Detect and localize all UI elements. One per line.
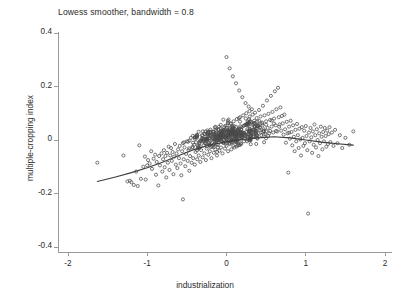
data-point (300, 126, 303, 129)
data-point (208, 150, 211, 153)
data-point (197, 130, 200, 133)
data-point (250, 108, 253, 111)
data-point (265, 99, 268, 102)
data-point (257, 108, 260, 111)
data-point (201, 156, 204, 159)
data-point (227, 150, 230, 153)
data-point (174, 163, 177, 166)
data-point (148, 162, 151, 165)
data-point (142, 165, 145, 168)
data-point (319, 125, 322, 128)
data-point (242, 114, 245, 117)
data-point (231, 75, 234, 78)
data-point (266, 126, 269, 129)
data-point (175, 152, 178, 155)
data-point (320, 135, 323, 138)
data-point (180, 174, 183, 177)
x-tick-label-4: 2 (370, 259, 400, 268)
scatter-points (96, 56, 355, 216)
y-tick-label-2: 0 (18, 134, 52, 143)
data-point (152, 157, 155, 160)
data-point (172, 173, 175, 176)
data-point (295, 140, 298, 143)
data-point (238, 89, 241, 92)
data-point (194, 141, 197, 144)
data-point (212, 151, 215, 154)
data-point (203, 152, 206, 155)
x-tick-label-2: 0 (212, 259, 242, 268)
data-point (321, 148, 324, 151)
data-point (158, 164, 161, 167)
data-point (139, 177, 142, 180)
data-point (276, 86, 279, 89)
data-point (182, 158, 185, 161)
data-point (284, 141, 287, 144)
data-point (332, 144, 335, 147)
data-point (304, 125, 307, 128)
data-point (169, 154, 172, 157)
data-point (287, 171, 290, 174)
data-point (232, 120, 235, 123)
data-point (150, 167, 153, 170)
data-point (160, 152, 163, 155)
data-point (207, 153, 210, 156)
data-point (265, 123, 268, 126)
data-point (315, 146, 318, 149)
data-point (318, 132, 321, 135)
data-point (190, 161, 193, 164)
data-point (164, 155, 167, 158)
y-tick-label-0: 0.4 (18, 27, 52, 36)
y-tick-label-1: 0.2 (18, 81, 52, 90)
data-point (253, 111, 256, 114)
data-point (215, 154, 218, 157)
data-point (310, 136, 313, 139)
data-point (327, 133, 330, 136)
data-point (255, 117, 258, 120)
x-tick-label-3: 1 (291, 259, 321, 268)
data-point (269, 94, 272, 97)
data-point (259, 115, 262, 118)
data-point (189, 155, 192, 158)
data-point (299, 154, 302, 157)
data-point (322, 130, 325, 133)
data-point (221, 152, 224, 155)
data-point (341, 146, 344, 149)
data-point (305, 134, 308, 137)
data-point (328, 126, 331, 129)
data-point (352, 130, 355, 133)
data-point (96, 161, 99, 164)
data-point (295, 122, 298, 125)
data-point (199, 160, 202, 163)
data-point (244, 102, 247, 105)
data-point (279, 106, 282, 109)
data-point (245, 112, 248, 115)
data-point (179, 162, 182, 165)
data-point (162, 149, 165, 152)
data-point (313, 123, 316, 126)
data-point (311, 151, 314, 154)
data-point (132, 183, 135, 186)
data-point (154, 153, 157, 156)
data-point (181, 198, 184, 201)
data-point (170, 159, 173, 162)
y-axis-title: multiple-cropping index (25, 38, 35, 238)
data-point (344, 136, 347, 139)
data-point (241, 96, 244, 99)
data-point (317, 155, 320, 158)
data-point (324, 134, 327, 137)
data-point (165, 176, 168, 179)
data-point (275, 108, 278, 111)
data-point (176, 167, 179, 170)
data-point (309, 126, 312, 129)
data-point (138, 144, 141, 147)
data-point (247, 105, 250, 108)
data-point (196, 158, 199, 161)
data-point (157, 184, 160, 187)
x-tick-label-1: -1 (132, 259, 162, 268)
data-point (270, 125, 273, 128)
data-point (303, 129, 306, 132)
data-point (289, 119, 292, 122)
data-point (146, 159, 149, 162)
data-point (238, 120, 241, 123)
data-point (193, 163, 196, 166)
